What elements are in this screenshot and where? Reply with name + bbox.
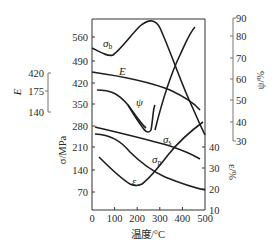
curve-psi-rise: [155, 27, 195, 130]
sigma-tick-490: 490: [72, 56, 88, 67]
x-tick-200: 200: [129, 213, 145, 224]
label-sigma-b: σb: [103, 37, 112, 51]
psi-tick-30: 30: [236, 136, 247, 147]
x-axis-title: 温度/°C: [131, 228, 165, 240]
x-tick-300: 300: [152, 213, 168, 224]
E-tick-140: 140: [28, 107, 44, 118]
curve-labels: σb E ψ σs σp ε: [103, 37, 171, 187]
epsilon-axis-ticks: 40 30 20 10 ε/%: [202, 142, 238, 216]
label-sigma-p: σp: [152, 153, 161, 167]
sigma-tick-70: 70: [78, 187, 89, 198]
label-psi: ψ: [136, 96, 143, 108]
E-tick-175: 175: [28, 86, 44, 97]
sigma-tick-280: 280: [72, 121, 88, 132]
psi-tick-50: 50: [236, 95, 247, 106]
label-E: E: [118, 65, 126, 77]
epsilon-axis-title: ε/%: [227, 164, 238, 180]
psi-tick-70: 70: [236, 53, 247, 64]
x-tick-0: 0: [89, 213, 94, 224]
psi-tick-60: 60: [236, 74, 247, 85]
psi-tick-80: 80: [236, 31, 247, 42]
sigma-tick-420: 420: [72, 78, 88, 89]
x-axis-ticks: 0 100 200 300 400 500 温度/°C: [89, 207, 213, 240]
curve-sigma-p: [95, 134, 205, 190]
E-tick-420: 420: [28, 68, 44, 79]
curve-psi-valley: [128, 105, 155, 132]
sigma-tick-560: 560: [72, 32, 88, 43]
psi-axis-title: ψ/%: [255, 71, 266, 89]
psi-tick-40: 40: [236, 117, 247, 128]
label-epsilon: ε: [132, 175, 137, 187]
psi-axis: 90 80 70 60 50 40 30 ψ/%: [230, 13, 266, 147]
label-sigma-s: σs: [163, 133, 171, 147]
epsilon-tick-20: 20: [209, 184, 220, 195]
epsilon-tick-30: 30: [209, 163, 220, 174]
chart: 0 100 200 300 400 500 温度/°C 560 490 420 …: [0, 0, 277, 249]
x-tick-100: 100: [107, 213, 123, 224]
sigma-axis-title: σ/MPa: [57, 135, 68, 164]
x-tick-400: 400: [175, 213, 191, 224]
sigma-tick-210: 210: [72, 142, 88, 153]
E-axis: 420 175 140 E: [11, 68, 51, 118]
epsilon-tick-10: 10: [209, 205, 220, 216]
sigma-axis-ticks: 560 490 420 350 280 210 140 70 σ/MPa: [57, 32, 95, 198]
E-axis-title: E: [11, 88, 23, 96]
sigma-tick-140: 140: [72, 165, 88, 176]
psi-tick-90: 90: [236, 13, 247, 24]
sigma-tick-350: 350: [72, 99, 88, 110]
epsilon-tick-40: 40: [209, 142, 220, 153]
